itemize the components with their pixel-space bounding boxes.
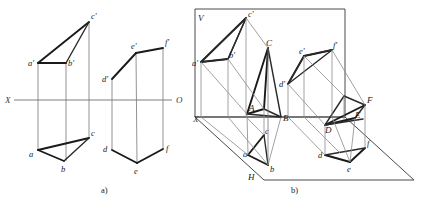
o-axis-label: O [176,95,183,105]
label-d: d [103,144,108,154]
technical-drawing-svg: X O a' b' c' a [0,0,424,213]
label-f-prime: f' [165,37,169,47]
panelb-label-c-prime: c' [248,9,254,19]
caption-a: a) [101,185,108,195]
label-e-prime: e' [131,41,137,51]
projector-lines-def [112,48,163,163]
label-c: c [91,128,95,138]
figure-root: X O a' b' c' a [0,0,424,213]
panelb-front-view-def [288,50,332,84]
label-e: e [134,166,138,176]
panelb-label-b-prime: b' [229,50,235,60]
front-view-abc [38,22,89,63]
panelb-label-f-prime: f' [333,40,337,50]
panel-b-group: V H X a' b' c' a [192,9,414,195]
x-axis-label: X [4,95,11,105]
label-origin-X: X [192,114,199,124]
front-view-def [112,48,163,79]
label-plane-V: V [198,13,205,23]
horizontal-plane-H [195,117,414,180]
panelb-label-A: A [248,103,255,113]
panelb-label-e-prime: e' [299,46,305,56]
label-c-prime: c' [91,11,97,21]
top-view-abc [38,138,89,161]
panelb-label-e: e [347,164,351,174]
panelb-label-d-prime: d' [279,79,285,89]
label-plane-H: H [247,172,255,182]
label-b-prime: b' [68,58,74,68]
top-view-def [112,149,163,163]
label-b: b [61,164,65,174]
panelb-front-view-abc [201,18,246,62]
panelb-label-f: f [367,138,371,148]
vertical-plane-V [195,9,345,117]
caption-b: b) [291,185,298,195]
panelb-label-b: b [270,164,274,174]
panelb-projectors-def [288,50,365,162]
label-a: a [29,149,33,159]
panel-a-group: X O a' b' c' a [4,11,183,195]
label-d-prime: d' [102,74,108,84]
label-a-prime: a' [28,58,34,68]
panelb-label-d: d [318,150,323,160]
label-f: f [166,143,170,153]
panelb-top-view-abc [248,135,268,165]
panelb-label-F: F [366,95,373,105]
panelb-label-a-prime: a' [192,58,198,68]
